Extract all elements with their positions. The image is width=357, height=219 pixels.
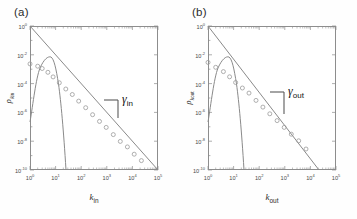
panel-b-ticks xyxy=(208,26,336,170)
panel-b-svg xyxy=(208,26,336,170)
panel-b-x-axis-label: kout xyxy=(208,192,336,204)
panel-b-ytick-0: 100 xyxy=(197,22,205,30)
panel-a-ytick-4: 10-8 xyxy=(17,137,27,145)
panel-b-slope-triangle xyxy=(270,92,284,114)
panel-a-svg xyxy=(30,26,158,170)
panel-b-gamma-annotation: γout xyxy=(288,84,304,100)
panel-b: (b) ρkout kout xyxy=(178,0,356,219)
panel-a-powerlaw-line xyxy=(30,26,158,170)
panel-a-plot: ρkin kin xyxy=(30,26,158,170)
rho-symbol-b: ρ xyxy=(183,101,193,105)
k-subscript-a: in xyxy=(10,93,15,97)
panel-b-ytick-4: 10-8 xyxy=(195,137,205,145)
panel-b-letter: (b) xyxy=(192,6,207,18)
panel-b-ytick-1: 10-2 xyxy=(195,51,205,59)
panel-a-xtick-1: 101 xyxy=(51,173,59,181)
panel-b-ytick-3: 10-6 xyxy=(195,108,205,116)
panel-a-x-axis-label: kin xyxy=(30,192,158,204)
gamma-subscript-b: out xyxy=(293,91,304,100)
k-subscript-x-b: out xyxy=(270,197,279,204)
panel-a-xtick-5: 105 xyxy=(154,173,162,181)
panel-b-xtick-2: 102 xyxy=(255,173,263,181)
rho-symbol-a: ρ xyxy=(3,99,13,103)
k-symbol-a: k xyxy=(9,96,15,99)
k-subscript-x-a: in xyxy=(93,197,98,204)
panel-b-poisson-curve xyxy=(208,57,244,170)
panel-a-gamma-annotation: γin xyxy=(122,92,133,108)
figure-container: (a) ρkin kin xyxy=(0,0,357,219)
panel-a-xtick-0: 100 xyxy=(26,173,34,181)
panel-b-plot: ρkout kout xyxy=(208,26,336,170)
k-subscript-b: out xyxy=(189,91,194,97)
panel-a-ytick-1: 10-2 xyxy=(17,51,27,59)
panel-a-ytick-3: 10-6 xyxy=(17,108,27,116)
panel-b-data-markers xyxy=(206,60,308,151)
panel-a-letter: (a) xyxy=(14,6,29,18)
panel-a: (a) ρkin kin xyxy=(0,0,178,219)
panel-b-xtick-0: 100 xyxy=(204,173,212,181)
panel-a-y-axis-label: ρkin xyxy=(3,93,15,103)
panel-b-y-axis-label: ρkout xyxy=(183,91,195,104)
panel-a-ytick-0: 100 xyxy=(19,22,27,30)
panel-a-poisson-curve xyxy=(30,57,66,170)
panel-a-data-markers xyxy=(28,62,143,163)
panel-a-ytick-2: 10-4 xyxy=(17,80,27,88)
panel-a-xtick-4: 104 xyxy=(128,173,136,181)
panel-a-slope-triangle xyxy=(104,100,118,118)
k-symbol-b: k xyxy=(188,98,194,101)
gamma-subscript-a: in xyxy=(127,99,133,108)
panel-b-xtick-4: 104 xyxy=(306,173,314,181)
panel-b-xtick-5: 105 xyxy=(332,173,340,181)
panel-b-ytick-2: 10-4 xyxy=(195,80,205,88)
panel-b-xtick-1: 101 xyxy=(229,173,237,181)
panel-a-xtick-2: 102 xyxy=(77,173,85,181)
panel-b-xtick-3: 103 xyxy=(281,173,289,181)
panel-a-xtick-3: 103 xyxy=(103,173,111,181)
